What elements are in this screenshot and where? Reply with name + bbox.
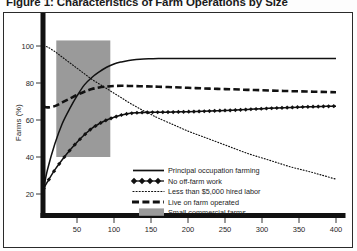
chart-legend: Principal occupation farming No off-farm…: [131, 166, 261, 217]
legend-label-no-off-farm-work: No off-farm work: [168, 177, 222, 186]
y-tick-40: 40: [26, 153, 34, 162]
y-axis-ticks: [36, 46, 41, 194]
x-tick-250: 250: [219, 225, 232, 234]
x-tick-350: 350: [293, 225, 306, 234]
x-tick-400: 400: [330, 225, 343, 234]
figure-page: Figure 1: Characteristics of Farm Operat…: [0, 0, 357, 251]
x-tick-150: 150: [145, 225, 158, 234]
y-axis-tick-labels: 100 80 60 40 20: [21, 42, 34, 199]
y-tick-20: 20: [26, 190, 34, 199]
legend-label-live-on-farm-operated: Live on farm operated: [168, 198, 239, 207]
x-tick-300: 300: [256, 225, 269, 234]
legend-marker-gray-swatch: [139, 208, 164, 215]
y-tick-60: 60: [26, 116, 34, 125]
legend-label-small-commercial-farms: Small commercial farms: [168, 208, 246, 217]
x-tick-50: 50: [73, 225, 81, 234]
y-tick-100: 100: [21, 42, 34, 51]
shaded-band-small-commercial-farms: [56, 40, 110, 157]
legend-label-less-than-5000-hired-labor: Less than $5,000 hired labor: [168, 187, 261, 196]
x-tick-100: 100: [108, 225, 121, 234]
x-axis-tick-labels: 50 100 150 200 250 300 350 400: [73, 225, 342, 234]
chart-svg: 100 80 60 40 20 50 100 150 2: [0, 0, 357, 251]
chart-plot-area: 100 80 60 40 20 50 100 150 2: [0, 0, 357, 251]
legend-label-principal-occupation-farming: Principal occupation farming: [168, 166, 260, 175]
legend-marker-diamond-line: [131, 178, 164, 184]
y-tick-80: 80: [26, 79, 34, 88]
x-tick-200: 200: [182, 225, 195, 234]
x-axis-ticks: [77, 218, 336, 223]
